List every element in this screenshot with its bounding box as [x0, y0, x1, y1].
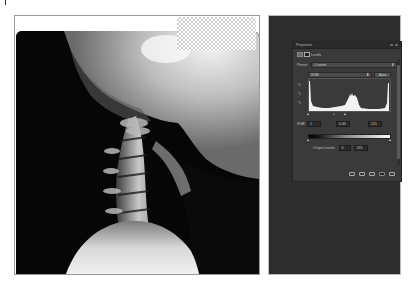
input-white-field[interactable]: 221	[368, 121, 382, 127]
black-point-eyedropper-icon[interactable]: ✎	[298, 83, 302, 87]
document-canvas[interactable]	[14, 15, 260, 275]
input-gamma-field[interactable]: 0.45	[336, 121, 350, 127]
visibility-icon[interactable]	[379, 172, 385, 176]
white-point-eyedropper-icon[interactable]: ✎	[298, 101, 302, 105]
channel-value: RGB	[311, 73, 319, 77]
adjustment-name: Levels	[311, 53, 321, 57]
reset-icon[interactable]	[369, 172, 375, 176]
properties-header[interactable]: Properties	[293, 42, 401, 49]
panel-title: Properties	[296, 43, 312, 47]
corner-mark	[5, 0, 6, 5]
input-label: RGB	[297, 122, 307, 126]
output-black-field[interactable]: 0	[339, 145, 351, 151]
levels-icon	[297, 52, 303, 57]
output-levels-row: Output Levels: 0 255	[313, 145, 368, 151]
panel-controls	[390, 44, 398, 46]
dropdown-arrow-icon: ⬍	[391, 63, 394, 67]
workspace-panel: Properties Levels Preset: Custom ⬍ RGB ⬍…	[268, 15, 401, 275]
preset-value: Custom	[314, 63, 326, 67]
input-levels-row: RGB 1 0.45 221	[297, 121, 397, 127]
mask-icon[interactable]	[304, 52, 310, 57]
collapse-icon[interactable]	[390, 44, 393, 46]
output-gradient-bar	[308, 134, 391, 139]
xray-image	[16, 31, 259, 274]
dropdown-arrow-icon: ⬍	[366, 73, 369, 77]
transparent-area	[177, 17, 256, 50]
preset-dropdown[interactable]: Custom ⬍	[311, 62, 397, 68]
properties-panel: Properties Levels Preset: Custom ⬍ RGB ⬍…	[292, 41, 402, 182]
panel-menu-icon[interactable]	[395, 44, 398, 46]
gray-point-eyedropper-icon[interactable]: ✎	[298, 92, 302, 96]
panel-footer	[349, 172, 395, 176]
output-levels-label: Output Levels:	[313, 146, 336, 150]
clip-to-layer-icon[interactable]	[349, 172, 355, 176]
input-white-slider[interactable]	[344, 113, 346, 115]
output-white-slider[interactable]	[389, 139, 391, 141]
view-previous-icon[interactable]	[359, 172, 365, 176]
input-black-slider[interactable]	[307, 113, 309, 115]
input-gray-slider[interactable]	[333, 113, 335, 115]
output-white-field[interactable]: 255	[354, 145, 368, 151]
trash-icon[interactable]	[389, 172, 395, 176]
preset-row: Preset: Custom ⬍	[297, 62, 397, 68]
histogram	[308, 78, 391, 112]
input-black-field[interactable]: 1	[307, 121, 321, 127]
output-black-slider[interactable]	[307, 139, 309, 141]
scroll-thumb[interactable]	[397, 65, 400, 159]
adjustment-row: Levels	[297, 52, 321, 57]
panel-scrollbar[interactable]	[397, 59, 400, 165]
preset-label: Preset:	[297, 63, 308, 67]
